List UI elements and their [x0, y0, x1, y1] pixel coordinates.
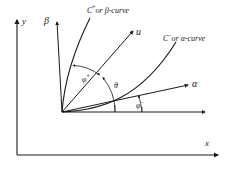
alpha-ray [62, 85, 188, 112]
phi-plus-sign: + [86, 73, 89, 79]
alpha-ray-label: α [192, 79, 197, 89]
phi-plus-label: φ+ [82, 74, 90, 84]
x-axis-label: x [205, 139, 209, 148]
beta-ray [57, 22, 62, 112]
u-ray-label: u [136, 27, 141, 37]
beta-characteristic-curve [62, 18, 90, 112]
beta-ray-label: β [44, 16, 49, 26]
phi-minus-label: φ− [136, 100, 144, 110]
alpha-characteristic-curve [62, 42, 176, 112]
characteristics-diagram: y x β u α C+or β-curve C−or α-curve φ+ θ… [0, 0, 236, 169]
u-ray [62, 31, 133, 112]
beta-curve-text: or β-curve [96, 6, 130, 15]
alpha-curve-label: C−or α-curve [163, 33, 205, 43]
alpha-curve-text: or α-curve [172, 34, 206, 43]
theta-label: θ [114, 80, 118, 90]
y-axis-label: y [22, 17, 26, 26]
theta-symbol: θ [114, 81, 118, 90]
phi-minus-sign: − [140, 99, 143, 105]
beta-curve-label: C+or β-curve [87, 5, 129, 15]
diagram-canvas [0, 0, 236, 169]
